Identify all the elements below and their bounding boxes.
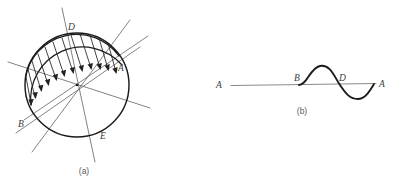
- label-a-E: E: [99, 131, 106, 141]
- label-b-A-right: A: [378, 79, 385, 89]
- circle-center-point: [76, 84, 79, 87]
- label-a-D: D: [67, 22, 75, 32]
- label-a-A: A: [117, 63, 124, 73]
- caption-a: (a): [79, 166, 90, 176]
- label-b-D: D: [338, 73, 346, 83]
- panel-b: A B D A (b): [215, 66, 385, 116]
- line-secondary-upper: [24, 36, 148, 120]
- label-b-B: B: [294, 73, 300, 83]
- figure-root: D A B E (a) A B D A (b): [0, 0, 394, 188]
- deflection-curve: [299, 66, 374, 99]
- label-b-A-left: A: [215, 80, 222, 90]
- line-secondary-steep: [32, 20, 130, 152]
- caption-b: (b): [297, 106, 308, 116]
- load-arrow: [53, 42, 66, 77]
- load-arrow: [62, 38, 75, 74]
- figure-canvas: D A B E (a) A B D A (b): [0, 0, 394, 188]
- label-a-B: B: [18, 119, 24, 129]
- panel-a: D A B E (a): [8, 8, 150, 176]
